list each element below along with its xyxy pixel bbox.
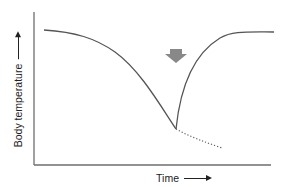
projected-cooling-curve: [176, 129, 222, 148]
y-axis-label-text: Body temperature: [12, 64, 24, 147]
arrow-right-icon: [184, 178, 210, 179]
x-axis-label-text: Time: [156, 172, 179, 184]
y-axis-label: Body temperature: [12, 33, 24, 147]
cooling-curve: [44, 30, 176, 129]
x-axis-label: Time: [156, 172, 210, 184]
rewarming-curve: [176, 32, 274, 129]
arrow-right-icon: [18, 33, 19, 59]
chart-canvas: [0, 0, 286, 187]
intervention-down-arrow-icon: [165, 49, 187, 63]
